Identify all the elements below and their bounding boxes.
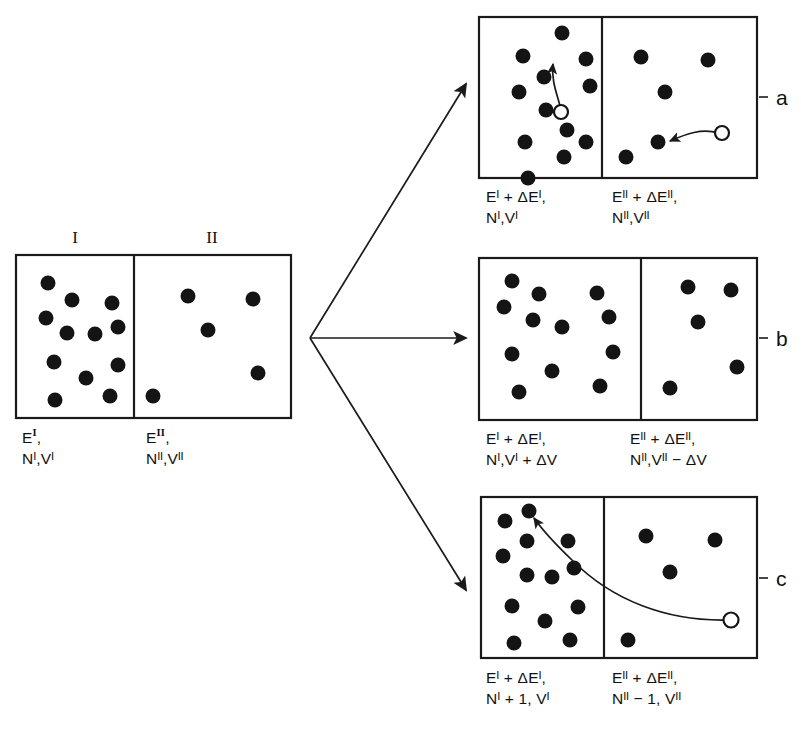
branch-panel-c: c Eᴵ + ΔEᴵ, Nᴵ + 1, Vᴵ Eᴵᴵ + ΔEᴵᴵ, Nᴵᴵ −… (481, 497, 787, 707)
initial-left-caption-line2: Nᴵ,Vᴵ (22, 450, 54, 467)
initial-composite-system: I II EI, Nᴵ,Vᴵ EII, Nᴵᴵ,Vᴵ (16, 228, 291, 467)
initial-left-caption-line1: EI, (22, 427, 41, 446)
branch-b-right-caption-line1: Eᴵᴵ + ΔEᴵᴵ, (630, 430, 696, 447)
branch-b-left-caption-line1: Eᴵ + ΔEᴵ, (486, 430, 546, 447)
phase-label-II: II (206, 228, 218, 247)
phase-label-I: I (72, 228, 78, 247)
thermodynamics-exchange-diagram: I II EI, Nᴵ,Vᴵ EII, Nᴵᴵ,Vᴵ (0, 0, 801, 741)
branch-a-right-caption-line2: Nᴵᴵ,Vᴵᴵ (612, 209, 650, 226)
branch-letter-c: c (776, 567, 787, 590)
branch-letter-b: b (776, 327, 788, 350)
branch-arrow-a (310, 84, 466, 338)
branch-a-right-caption-line1: Eᴵᴵ + ΔEᴵᴵ, (612, 188, 678, 205)
branch-arrows (310, 84, 466, 590)
branch-panel-a: a Eᴵ + ΔEᴵ, Nᴵ,Vᴵ Eᴵᴵ + ΔEᴵᴵ, Nᴵᴵ,Vᴵᴵ (479, 17, 788, 226)
branch-b-left-caption-line2: Nᴵ,Vᴵ + ΔV (486, 451, 558, 468)
branch-c-right-caption-line2: Nᴵᴵ − 1, Vᴵᴵ (612, 690, 681, 707)
branch-c-open-particle (724, 613, 739, 628)
branch-a-left-caption-line2: Nᴵ,Vᴵ (486, 209, 518, 226)
branch-panel-b: b Eᴵ + ΔEᴵ, Nᴵ,Vᴵ + ΔV Eᴵᴵ + ΔEᴵᴵ, Nᴵᴵ,V… (479, 258, 788, 468)
branch-letter-a: a (776, 86, 788, 109)
initial-right-caption-line2: Nᴵᴵ,Vᴵᴵ (146, 450, 184, 467)
figure-root: I II EI, Nᴵ,Vᴵ EII, Nᴵᴵ,Vᴵ (0, 0, 801, 741)
branch-c-left-caption-line1: Eᴵ + ΔEᴵ, (486, 669, 546, 686)
branch-a-right-open-particle (715, 126, 729, 140)
branch-a-left-open-particle (554, 105, 568, 119)
branch-c-left-caption-line2: Nᴵ + 1, Vᴵ (486, 690, 550, 707)
branch-a-left-caption-line1: Eᴵ + ΔEᴵ, (486, 188, 546, 205)
branch-arrow-c (310, 338, 466, 590)
branch-c-right-caption-line1: Eᴵᴵ + ΔEᴵᴵ, (612, 669, 678, 686)
branch-b-right-caption-line2: Nᴵᴵ,Vᴵᴵ − ΔV (630, 451, 707, 468)
initial-right-caption-line1: EII, (146, 427, 170, 446)
